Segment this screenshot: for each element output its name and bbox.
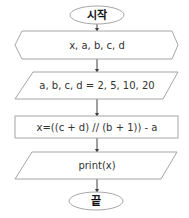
start-terminator: 시작: [70, 6, 124, 24]
end-terminator: 끝: [69, 192, 123, 210]
input-label: a, b, c, d = 2, 5, 10, 20: [39, 80, 154, 91]
end-label: 끝: [91, 195, 101, 208]
declare-preparation: x, a, b, c, d: [15, 31, 178, 59]
output-label: print(x): [78, 160, 115, 171]
process-rectangle: x=((c + d) // (b + 1)) - a: [15, 116, 178, 138]
input-parallelogram: a, b, c, d = 2, 5, 10, 20: [15, 72, 178, 99]
output-parallelogram: print(x): [15, 152, 177, 179]
flowchart: 시작 x, a, b, c, d a, b, c, d = 2, 5, 10, …: [0, 0, 189, 218]
declare-label: x, a, b, c, d: [69, 40, 125, 51]
start-label: 시작: [87, 8, 107, 22]
process-label: x=((c + d) // (b + 1)) - a: [37, 122, 158, 133]
